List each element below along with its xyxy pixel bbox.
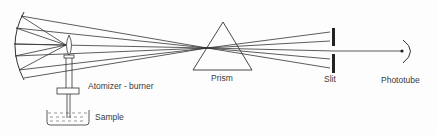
label-prism: Prism: [211, 73, 233, 83]
phototube-dot: [400, 49, 403, 52]
rays-flame-to-mirror: [14, 16, 66, 70]
diagram-canvas: [0, 0, 437, 135]
sample-dish: [47, 110, 89, 125]
slit-upper-jaw: [332, 28, 335, 46]
label-phototube: Phototube: [381, 75, 420, 85]
dispersed-rays: [207, 32, 334, 68]
label-slit: Slit: [324, 74, 336, 84]
rays-mirror-to-prism: [14, 16, 207, 78]
slit-lower-jaw: [332, 54, 335, 73]
flame-icon: [67, 35, 72, 56]
phototube-icon: [403, 40, 411, 63]
label-sample: Sample: [95, 112, 124, 122]
label-atomizer-burner: Atomizer - burner: [88, 81, 154, 91]
optical-diagram: Atomizer - burner Sample Prism Slit Phot…: [0, 0, 437, 135]
